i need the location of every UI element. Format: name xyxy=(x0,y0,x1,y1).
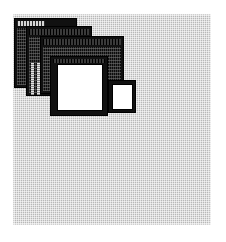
window-front[interactable] xyxy=(50,56,108,116)
window-second-scrollbar-1[interactable] xyxy=(31,63,34,95)
screenshot-canvas xyxy=(0,0,226,242)
window-small[interactable] xyxy=(108,80,136,113)
window-third-titlebar[interactable] xyxy=(43,39,121,45)
window-second-titlebar[interactable] xyxy=(29,29,89,35)
window-front-titlebar[interactable] xyxy=(53,59,105,63)
window-small-canvas[interactable] xyxy=(112,84,133,110)
window-front-canvas[interactable] xyxy=(57,64,103,111)
